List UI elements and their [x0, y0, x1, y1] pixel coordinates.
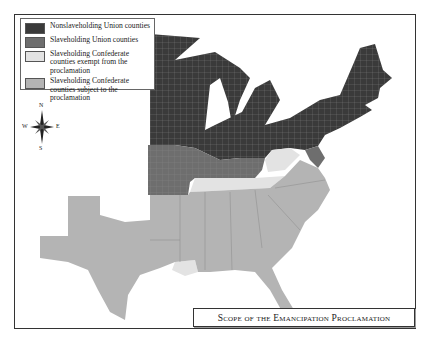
compass-east: E [56, 123, 60, 129]
legend-swatch [25, 51, 45, 62]
region-nonslaveholding-union [150, 34, 392, 160]
compass-north: N [39, 102, 43, 108]
legend-label: Slaveholding Union counties [50, 36, 138, 44]
compass-rose-icon: N S E W [22, 102, 62, 152]
legend-item: Slaveholding Union counties [25, 36, 150, 48]
map-title: Scope of the Emancipation Proclamation [218, 313, 390, 323]
legend-swatch [25, 23, 45, 34]
map-legend: Nonslaveholding Union counties Slavehold… [20, 18, 155, 90]
legend-swatch [25, 78, 45, 89]
compass-south: S [39, 145, 42, 151]
map-title-box: Scope of the Emancipation Proclamation [193, 308, 415, 327]
legend-item: Slaveholding Confederate counties subjec… [25, 77, 150, 102]
legend-label: Slaveholding Confederate counties exempt… [50, 50, 150, 75]
legend-item: Nonslaveholding Union counties [25, 22, 150, 34]
compass-west: W [22, 123, 28, 129]
legend-swatch [25, 37, 45, 48]
legend-label: Nonslaveholding Union counties [50, 22, 150, 30]
legend-label: Slaveholding Confederate counties subjec… [50, 77, 150, 102]
legend-item: Slaveholding Confederate counties exempt… [25, 50, 150, 75]
